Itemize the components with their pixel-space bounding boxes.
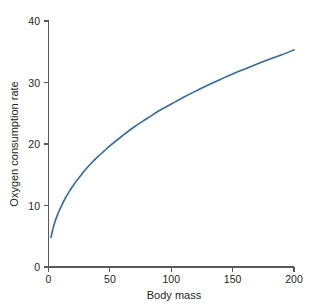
y-tick-label-10: 10 xyxy=(28,200,40,212)
y-axis-title: Oxygen consumption rate xyxy=(8,81,20,206)
y-tick-label-40: 40 xyxy=(28,15,40,27)
y-tick-label-30: 30 xyxy=(28,77,40,89)
x-tick-label-50: 50 xyxy=(104,273,116,285)
x-tick-label-200: 200 xyxy=(285,273,303,285)
x-axis-title: Body mass xyxy=(147,289,202,301)
line-chart: 40 30 20 10 0 0 50 100 150 200 Body mass… xyxy=(0,0,322,308)
x-tick-label-0: 0 xyxy=(46,273,52,285)
y-tick-label-0: 0 xyxy=(34,261,40,273)
y-tick-label-20: 20 xyxy=(28,138,40,150)
x-tick-label-100: 100 xyxy=(163,273,181,285)
x-tick-label-150: 150 xyxy=(224,273,242,285)
chart-container: 40 30 20 10 0 0 50 100 150 200 Body mass… xyxy=(0,0,322,308)
